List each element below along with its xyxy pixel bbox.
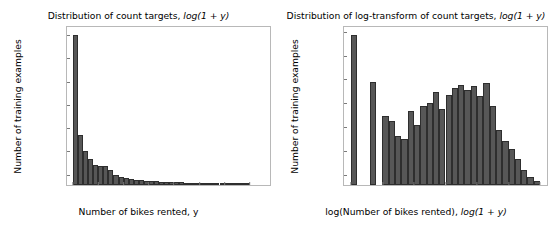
left-y-tick-mark bbox=[67, 35, 70, 36]
right-x-tick-mark bbox=[508, 182, 509, 185]
left-y-tick-mark bbox=[67, 58, 70, 59]
left-x-tick-mark bbox=[123, 182, 124, 185]
left-y-tick-mark bbox=[67, 175, 70, 176]
bar-series-right bbox=[344, 27, 547, 185]
x-axis-label-right: log(Number of bikes rented), log(1 + y) bbox=[277, 206, 555, 217]
left-y-tick-label: 4000 bbox=[66, 77, 67, 87]
left-y-tick-label: 1000 bbox=[66, 147, 67, 157]
right-x-tick-label: 1 bbox=[380, 185, 385, 186]
right-x-tick-mark bbox=[445, 182, 446, 185]
left-y-tick-mark bbox=[67, 82, 70, 83]
x-axis-label-left: Number of bikes rented, y bbox=[0, 206, 277, 217]
right-x-tick-label: 0 bbox=[348, 185, 353, 186]
right-x-tick-label: 5 bbox=[506, 185, 511, 186]
right-x-tick-label: 4 bbox=[474, 185, 479, 186]
right-y-tick-mark bbox=[344, 127, 347, 128]
left-x-tick-label: 300 bbox=[217, 185, 233, 186]
y-axis-label-right: Number of training examples bbox=[287, 26, 301, 186]
chart-title-left-math: log(1 + y) bbox=[183, 10, 229, 21]
chart-title-right-math: log(1 + y) bbox=[499, 10, 545, 21]
y-axis-label-right-text: Number of training examples bbox=[289, 39, 300, 173]
right-y-tick-mark bbox=[344, 56, 347, 57]
right-x-tick-mark bbox=[413, 182, 414, 185]
right-y-tick-label: 400 bbox=[343, 122, 344, 132]
left-x-tick-mark bbox=[73, 182, 74, 185]
left-y-tick-label: 0 bbox=[66, 170, 67, 180]
plot-area-right: 020040060080010001200 0123456 bbox=[343, 26, 548, 186]
left-x-tick-mark bbox=[224, 182, 225, 185]
left-x-tick-mark bbox=[199, 182, 200, 185]
right-x-tick-label: 3 bbox=[443, 185, 448, 186]
right-y-tick-label: 1000 bbox=[343, 51, 344, 61]
left-x-tick-label: 200 bbox=[166, 185, 182, 186]
right-bar bbox=[351, 35, 357, 185]
chart-panel-count-targets: Distribution of count targets, log(1 + y… bbox=[0, 0, 277, 234]
left-x-tick-label: 50 bbox=[93, 185, 103, 186]
left-y-tick-label: 3000 bbox=[66, 100, 67, 110]
left-y-tick-mark bbox=[67, 105, 70, 106]
x-axis-label-right-text: log(Number of bikes rented), bbox=[325, 206, 458, 217]
right-y-tick-mark bbox=[344, 151, 347, 152]
left-x-tick-mark bbox=[249, 182, 250, 185]
right-x-tick-mark bbox=[540, 182, 541, 185]
chart-title-right: Distribution of log-transform of count t… bbox=[277, 10, 555, 21]
chart-title-left-text: Distribution of count targets, bbox=[48, 10, 181, 21]
x-axis-label-left-text: Number of bikes rented, y bbox=[79, 206, 199, 217]
right-y-tick-mark bbox=[344, 32, 347, 33]
chart-panel-log-transform: Distribution of log-transform of count t… bbox=[277, 0, 555, 234]
y-axis-label-left-text: Number of training examples bbox=[12, 39, 23, 173]
left-x-tick-mark bbox=[98, 182, 99, 185]
right-x-tick-mark bbox=[382, 182, 383, 185]
x-axis-label-right-math: log(1 + y) bbox=[461, 206, 507, 217]
left-x-tick-label: 100 bbox=[116, 185, 132, 186]
left-y-tick-mark bbox=[67, 128, 70, 129]
left-x-tick-label: 250 bbox=[191, 185, 207, 186]
right-x-tick-mark bbox=[350, 182, 351, 185]
left-x-tick-mark bbox=[148, 182, 149, 185]
right-x-tick-label: 2 bbox=[411, 185, 416, 186]
left-x-tick-label: 350 bbox=[242, 185, 258, 186]
figure-histograms-pair: Distribution of count targets, log(1 + y… bbox=[0, 0, 555, 234]
right-x-tick-mark bbox=[477, 182, 478, 185]
left-y-tick-label: 6000 bbox=[66, 31, 67, 41]
right-bar bbox=[370, 82, 376, 185]
right-y-tick-mark bbox=[344, 175, 347, 176]
plot-area-left: 0100020003000400050006000 05010015020025… bbox=[66, 26, 271, 186]
y-axis-label-left: Number of training examples bbox=[10, 26, 24, 186]
right-x-tick-label: 6 bbox=[537, 185, 542, 186]
right-y-tick-label: 1200 bbox=[343, 27, 344, 37]
right-y-tick-label: 800 bbox=[343, 75, 344, 85]
left-x-tick-label: 150 bbox=[141, 185, 157, 186]
right-y-tick-label: 600 bbox=[343, 99, 344, 109]
left-x-tick-mark bbox=[174, 182, 175, 185]
right-y-tick-mark bbox=[344, 103, 347, 104]
chart-title-left: Distribution of count targets, log(1 + y… bbox=[0, 10, 277, 21]
left-y-tick-mark bbox=[67, 151, 70, 152]
right-y-tick-mark bbox=[344, 79, 347, 80]
bar-series-left bbox=[67, 27, 270, 185]
left-x-tick-label: 0 bbox=[70, 185, 75, 186]
chart-title-right-text: Distribution of log-transform of count t… bbox=[287, 10, 497, 21]
left-y-tick-label: 2000 bbox=[66, 124, 67, 134]
left-y-tick-label: 5000 bbox=[66, 54, 67, 64]
right-y-tick-label: 200 bbox=[343, 146, 344, 156]
right-y-tick-label: 0 bbox=[343, 170, 344, 180]
